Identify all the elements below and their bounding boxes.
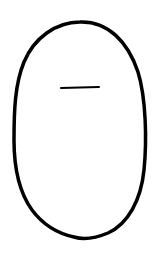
oval-outline [14,22,146,238]
horizontal-mark [61,87,99,88]
drawing-canvas [0,0,159,260]
oval-drawing [0,0,159,260]
